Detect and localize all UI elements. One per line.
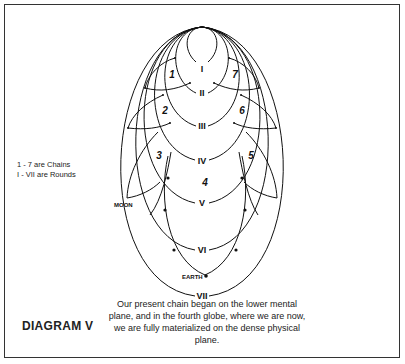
- legend-rounds: I - VII are Rounds: [17, 170, 76, 180]
- chain-label-3: 3: [156, 150, 162, 161]
- earth-label: EARTH: [182, 274, 203, 280]
- chain-label-1: 1: [169, 69, 175, 80]
- round-label-IV: IV: [198, 156, 207, 166]
- chain-label-5: 5: [248, 150, 254, 161]
- chain-label-4: 4: [201, 177, 208, 188]
- round-label-III: III: [198, 121, 206, 131]
- earth-dot: [204, 274, 208, 278]
- chain-3-loop: [127, 132, 160, 198]
- round-label-V: V: [199, 198, 205, 208]
- globe-dot: [234, 248, 237, 251]
- earth-chain-curve: [164, 156, 245, 275]
- globe-dot: [166, 176, 169, 179]
- round-I-curve: [187, 27, 217, 62]
- legend: 1 - 7 are Chains I - VII are Rounds: [17, 160, 76, 179]
- round-label-II: II: [199, 88, 204, 98]
- round-VI-curve: [136, 27, 268, 250]
- globe-dot: [243, 208, 246, 211]
- globe-dot: [240, 176, 243, 179]
- legend-chains: 1 - 7 are Chains: [17, 160, 76, 170]
- chain-label-6: 6: [239, 105, 245, 116]
- round-II-curve: [176, 27, 229, 93]
- globe-dot: [172, 248, 175, 251]
- round-label-VI: VI: [198, 245, 207, 255]
- round-label-I: I: [201, 64, 204, 74]
- chain-3-arc: [150, 152, 171, 215]
- round-III-curve: [165, 27, 239, 126]
- moon-label: MOON: [114, 202, 133, 208]
- diagram-caption: Our present chain began on the lower men…: [108, 298, 306, 346]
- chain-5-loop: [244, 132, 277, 198]
- globe-dot: [163, 208, 166, 211]
- chain-label-2: 2: [161, 105, 168, 116]
- chain-5-arc: [239, 152, 258, 215]
- chain-1-loop: [145, 58, 190, 90]
- diagram-title: DIAGRAM V: [22, 319, 93, 333]
- chain-label-7: 7: [232, 69, 238, 80]
